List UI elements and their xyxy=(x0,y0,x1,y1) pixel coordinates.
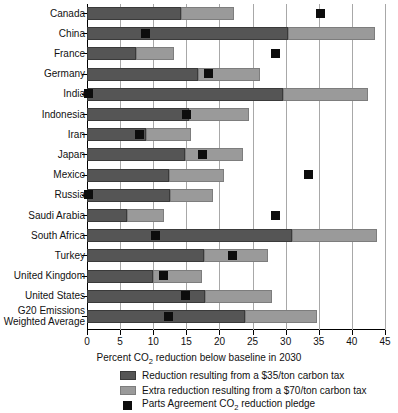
gridline-45 xyxy=(385,4,386,330)
bar-segment-carbon-tax-70 xyxy=(283,88,368,101)
legend-swatch-pledge xyxy=(123,401,132,410)
pledge-marker xyxy=(159,271,168,280)
legend-label-prefix: Reduction resulting from a $35/ton carbo… xyxy=(142,370,344,381)
category-label-turkey: Turkey xyxy=(55,250,85,261)
pledge-marker xyxy=(182,110,191,119)
bar-segment-carbon-tax-35 xyxy=(87,169,169,182)
x-tick-mark-5 xyxy=(120,330,121,335)
bar-row xyxy=(87,187,385,204)
bar-segment-carbon-tax-35 xyxy=(87,148,185,161)
category-label-line: G20 Emissions xyxy=(4,305,85,316)
bar-segment-carbon-tax-35 xyxy=(87,108,189,121)
bar-segment-carbon-tax-35 xyxy=(87,209,127,222)
bar-row xyxy=(87,66,385,83)
bar-row xyxy=(87,167,385,184)
category-label-line: Mexico xyxy=(53,169,85,180)
x-tick-mark-45 xyxy=(385,330,386,335)
x-tick-mark-30 xyxy=(286,330,287,335)
bar-segment-carbon-tax-70 xyxy=(170,189,212,202)
category-label-line: Germany xyxy=(44,68,85,79)
bar-segment-carbon-tax-70 xyxy=(169,169,224,182)
bar-row xyxy=(87,45,385,62)
bar-segment-carbon-tax-70 xyxy=(127,209,163,222)
category-label-line: South Africa xyxy=(31,230,85,241)
category-label-line: Canada xyxy=(50,8,85,19)
category-label-iran: Iran xyxy=(68,129,85,140)
bar-row xyxy=(87,86,385,103)
bar-row xyxy=(87,106,385,123)
bar-row xyxy=(87,227,385,244)
bar-row xyxy=(87,288,385,305)
bar-row xyxy=(87,25,385,42)
x-axis-title-suffix: reduction below baseline in 2030 xyxy=(153,352,301,363)
category-label-france: France xyxy=(54,48,85,59)
pledge-marker xyxy=(164,312,173,321)
pledge-marker xyxy=(304,170,313,179)
bar-segment-carbon-tax-35 xyxy=(87,68,198,81)
x-axis-title: Percent CO2 reduction below baseline in … xyxy=(0,352,398,366)
category-label-china: China xyxy=(59,28,85,39)
pledge-marker xyxy=(84,190,93,199)
x-axis-title-prefix: Percent CO xyxy=(97,352,149,363)
bar-row xyxy=(87,308,385,325)
bar-segment-carbon-tax-35 xyxy=(87,27,288,40)
pledge-marker xyxy=(141,29,150,38)
category-label-line: Saudi Arabia xyxy=(28,210,85,221)
bar-segment-carbon-tax-70 xyxy=(181,7,234,20)
x-tick-label-35: 35 xyxy=(313,336,324,347)
category-label-line: Turkey xyxy=(55,250,85,261)
x-tick-mark-15 xyxy=(186,330,187,335)
x-tick-label-15: 15 xyxy=(181,336,192,347)
category-label-germany: Germany xyxy=(44,68,85,79)
pledge-marker xyxy=(271,49,280,58)
category-label-line: France xyxy=(54,48,85,59)
bar-row xyxy=(87,268,385,285)
legend-label: Reduction resulting from a $35/ton carbo… xyxy=(142,370,344,381)
category-label-line: Japan xyxy=(58,149,85,160)
pledge-marker xyxy=(135,130,144,139)
category-label-line: Weighted Average xyxy=(4,316,85,327)
x-tick-label-0: 0 xyxy=(84,336,90,347)
bar-segment-carbon-tax-35 xyxy=(87,229,292,242)
category-label-united-states: United States xyxy=(25,290,85,301)
plot-area xyxy=(87,4,385,330)
bar-segment-carbon-tax-70 xyxy=(136,47,174,60)
category-label-japan: Japan xyxy=(58,149,85,160)
category-label-canada: Canada xyxy=(50,8,85,19)
legend-item: Reduction resulting from a $35/ton carbo… xyxy=(120,368,367,382)
legend-item: Parts Agreement CO2 reduction pledge xyxy=(120,398,367,412)
pledge-marker xyxy=(271,211,280,220)
category-label-line: Russia xyxy=(54,189,85,200)
legend-label-prefix: Parts Agreement CO xyxy=(142,398,234,409)
x-tick-label-25: 25 xyxy=(247,336,258,347)
chart-legend: Reduction resulting from a $35/ton carbo… xyxy=(120,368,367,413)
legend-swatch-light xyxy=(120,386,136,395)
legend-swatch-dark xyxy=(120,371,136,380)
x-tick-mark-20 xyxy=(219,330,220,335)
category-label-line: China xyxy=(59,28,85,39)
category-label-line: Iran xyxy=(68,129,85,140)
x-tick-label-45: 45 xyxy=(379,336,390,347)
x-tick-mark-25 xyxy=(253,330,254,335)
x-tick-mark-10 xyxy=(153,330,154,335)
category-label-mexico: Mexico xyxy=(53,169,85,180)
x-tick-label-10: 10 xyxy=(148,336,159,347)
bar-segment-carbon-tax-35 xyxy=(87,249,204,262)
pledge-marker xyxy=(84,89,93,98)
pledge-marker xyxy=(228,251,237,260)
x-tick-label-5: 5 xyxy=(117,336,123,347)
pledge-marker xyxy=(316,9,325,18)
bar-segment-carbon-tax-35 xyxy=(87,189,170,202)
pledge-marker xyxy=(151,231,160,240)
bar-row xyxy=(87,5,385,22)
bar-segment-carbon-tax-70 xyxy=(146,128,191,141)
bar-segment-carbon-tax-70 xyxy=(288,27,375,40)
legend-label-prefix: Extra reduction resulting from a $70/ton… xyxy=(142,385,367,396)
bar-segment-carbon-tax-70 xyxy=(185,148,243,161)
category-label-indonesia: Indonesia xyxy=(42,109,85,120)
bar-row xyxy=(87,146,385,163)
pledge-marker xyxy=(181,291,190,300)
bar-segment-carbon-tax-70 xyxy=(189,108,249,121)
legend-item: Extra reduction resulting from a $70/ton… xyxy=(120,383,367,397)
legend-label: Extra reduction resulting from a $70/ton… xyxy=(142,385,367,396)
